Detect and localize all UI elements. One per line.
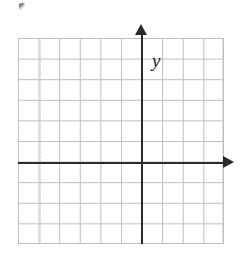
y-axis-label: y — [152, 51, 160, 70]
scan-artifact-speck — [18, 2, 25, 10]
y-axis-arrow-icon — [135, 24, 147, 35]
x-axis-arrow-icon — [223, 156, 234, 168]
coordinate-grid-figure: x y — [0, 0, 249, 264]
grid-frame — [18, 38, 224, 244]
x-axis-line — [18, 162, 228, 164]
plot-area: x y — [18, 38, 224, 244]
scan-dotted-band — [40, 38, 41, 244]
scan-dotted-band — [222, 38, 223, 244]
y-axis-line — [141, 35, 143, 244]
